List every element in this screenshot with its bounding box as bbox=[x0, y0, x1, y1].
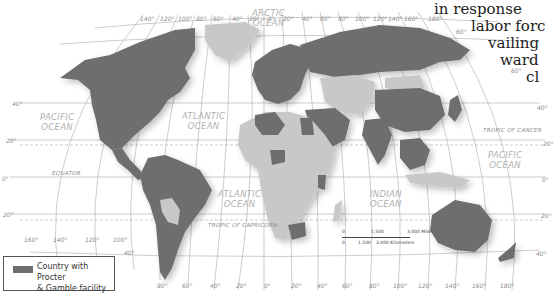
kenya bbox=[318, 175, 326, 190]
longitude-label: 180° bbox=[500, 282, 514, 289]
russia bbox=[300, 25, 470, 78]
scale-km-0: 0 bbox=[342, 240, 345, 245]
tropic-of-capricorn-label: TROPIC OF CAPRICORN bbox=[208, 222, 277, 228]
longitude-label: 60° bbox=[182, 282, 193, 289]
longitude-label: 160° bbox=[472, 282, 486, 289]
longitude-label: 140° bbox=[53, 236, 67, 243]
southeast-asia bbox=[400, 138, 430, 170]
longitude-label: 40° bbox=[317, 282, 328, 289]
longitude-label: 100° bbox=[113, 236, 127, 243]
scale-miles-0: 0 bbox=[342, 229, 345, 234]
longitude-label: 120° bbox=[85, 236, 99, 243]
longitude-label: 160° bbox=[404, 15, 418, 22]
greenland bbox=[205, 22, 260, 62]
longitude-label: 60° bbox=[320, 15, 331, 22]
ocean-label-atlantic-south: ATLANTICOCEAN bbox=[218, 189, 261, 209]
longitude-label: 120° bbox=[418, 282, 432, 289]
body-text-line-5: cl bbox=[526, 68, 539, 87]
madagascar bbox=[333, 200, 342, 222]
longitude-label: 100° bbox=[393, 282, 407, 289]
longitude-label: 20° bbox=[283, 15, 294, 22]
continents bbox=[60, 22, 516, 280]
longitude-label: 20° bbox=[249, 15, 260, 22]
japan bbox=[448, 95, 462, 122]
latitude-label: 20° bbox=[6, 137, 17, 144]
longitude-label: 20° bbox=[236, 282, 247, 289]
longitude-label: 60° bbox=[213, 15, 224, 22]
longitude-label: 80° bbox=[338, 15, 349, 22]
ocean-label-pacific-west: PACIFICOCEAN bbox=[40, 112, 74, 132]
longitude-label: 40° bbox=[302, 15, 313, 22]
longitude-label: 80° bbox=[157, 282, 168, 289]
latitude-label: 40° bbox=[124, 249, 135, 256]
latitude-label: 20° bbox=[541, 212, 552, 219]
ocean-label-pacific-east: PACIFICOCEAN bbox=[488, 150, 522, 170]
longitude-label: 40° bbox=[210, 282, 221, 289]
ocean-label-indian: INDIANOCEAN bbox=[370, 189, 402, 209]
latitude-label: 0° bbox=[2, 175, 9, 182]
scale-km-1500: 1,500 bbox=[358, 240, 371, 245]
latitude-label: 20° bbox=[3, 211, 14, 218]
north-america bbox=[60, 28, 195, 150]
latitude-label: 60° bbox=[456, 28, 467, 35]
longitude-label: 100° bbox=[355, 15, 369, 22]
scale-miles-3000: 3,000 Miles bbox=[407, 229, 433, 234]
latitude-label: 40° bbox=[536, 250, 547, 257]
scale-line bbox=[342, 237, 410, 238]
south-africa bbox=[288, 222, 306, 240]
latitude-label: 40° bbox=[537, 104, 548, 111]
indonesia bbox=[405, 172, 470, 188]
latitude-label: 0° bbox=[542, 176, 549, 183]
scale-miles-1500: 1,500 bbox=[371, 229, 384, 234]
legend-label: Country with Procter & Gamble facility bbox=[37, 261, 114, 294]
latitude-label: 40° bbox=[12, 100, 23, 107]
ocean-label-atlantic-north: ATLANTICOCEAN bbox=[182, 111, 225, 131]
longitude-label: 80° bbox=[196, 15, 207, 22]
scale-km-3000: 3,000 Kilometers bbox=[376, 240, 414, 245]
longitude-label: 0° bbox=[268, 15, 275, 22]
legend-swatch-facility bbox=[13, 266, 33, 273]
longitude-label: 40° bbox=[232, 15, 243, 22]
longitude-label: 160° bbox=[24, 236, 38, 243]
longitude-label: 140° bbox=[445, 282, 459, 289]
longitude-label: 60° bbox=[342, 282, 353, 289]
map-legend: Country with Procter & Gamble facility bbox=[3, 256, 115, 291]
longitude-label: 0° bbox=[264, 282, 271, 289]
longitude-label: 140° bbox=[388, 15, 402, 22]
egypt bbox=[300, 118, 314, 135]
longitude-label: 100° bbox=[178, 15, 192, 22]
longitude-label: 120° bbox=[373, 15, 387, 22]
india bbox=[362, 118, 392, 165]
new-zealand bbox=[498, 242, 516, 262]
scale-bar: 0 1,500 3,000 Miles 0 1,500 3,000 Kilome… bbox=[336, 228, 436, 252]
longitude-label: 140° bbox=[140, 15, 154, 22]
longitude-label: 120° bbox=[160, 15, 174, 22]
latitude-label: 20° bbox=[543, 140, 554, 147]
longitude-label: 80° bbox=[369, 282, 380, 289]
australia bbox=[430, 200, 492, 252]
longitude-label: 20° bbox=[291, 282, 302, 289]
equator-label: EQUATOR bbox=[52, 170, 81, 176]
tropic-of-cancer-label: TROPIC OF CANCER bbox=[483, 127, 542, 133]
